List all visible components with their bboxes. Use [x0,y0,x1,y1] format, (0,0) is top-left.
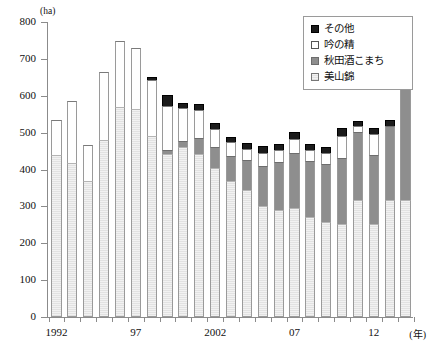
segment-miyamanishiki [337,224,347,317]
segment-akitasakekomachi [289,153,299,208]
segment-sonota [258,146,268,153]
segment-ginnosei [194,110,204,138]
bar-2007 [289,132,299,317]
x-axis-tick [239,317,240,322]
segment-ginnosei [337,136,347,157]
x-axis-tick-label: 2002 [195,326,235,338]
x-axis-tick [175,317,176,322]
bar-1996 [115,41,125,317]
segment-miyamanishiki [67,163,77,317]
x-axis-unit-label: (年) [409,326,426,341]
segment-sonota [337,128,347,136]
segment-ginnosei [210,129,220,147]
segment-miyamanishiki [400,200,410,317]
y-axis-tick-label: 600 [2,90,36,101]
bar-1992 [51,120,61,317]
segment-akitasakekomachi [194,138,204,153]
segment-miyamanishiki [289,208,299,317]
x-axis-tick [191,317,192,322]
y-axis-unit-label: (ha) [40,6,55,16]
x-axis-tick [366,317,367,322]
segment-ginnosei [147,80,157,135]
legend-item-ginnosei: 吟の精 [311,38,406,51]
legend-label-sonota: その他 [324,23,354,34]
segment-ginnosei [258,153,268,166]
x-axis-tick [128,317,129,322]
x-axis-tick [223,317,224,322]
segment-akitasakekomachi [242,160,252,190]
segment-miyamanishiki [369,224,379,317]
segment-sonota [289,132,299,139]
x-axis-tick [144,317,145,322]
segment-miyamanishiki [178,147,188,317]
legend-item-miyama: 美山錦 [311,70,406,83]
segment-sonota [194,104,204,110]
x-axis-tick [112,317,113,322]
segment-sonota [162,95,172,106]
x-axis-tick [414,317,415,322]
segment-miyamanishiki [162,154,172,317]
bar-2009 [321,147,331,317]
segment-ginnosei [162,106,172,150]
bar-2002 [210,123,220,317]
segment-ginnosei [51,120,61,155]
y-axis-tick-label: 100 [2,274,36,285]
segment-sonota [385,120,395,126]
segment-akitasakekomachi [210,147,220,167]
segment-ginnosei [131,48,141,109]
segment-akitasakekomachi [400,85,410,200]
segment-akitasakekomachi [369,155,379,224]
legend-label-miyama: 美山錦 [324,71,354,82]
segment-ginnosei [289,139,299,153]
legend-item-komachi: 秋田酒こまち [311,54,406,67]
x-axis-tick [64,317,65,322]
segment-akitasakekomachi [353,132,363,200]
bar-2011 [353,121,363,317]
segment-miyamanishiki [321,222,331,317]
segment-akitasakekomachi [162,150,172,154]
segment-ginnosei [226,142,236,156]
x-axis-tick [160,317,161,322]
legend-item-sonota: その他 [311,22,406,35]
segment-miyamanishiki [99,140,109,317]
black-square-swatch-icon [311,25,319,33]
segment-miyamanishiki [194,154,204,317]
x-axis-tick [334,317,335,322]
bar-1999 [162,95,172,317]
segment-sonota [305,144,315,150]
y-axis-tick-label: 400 [2,164,36,175]
x-axis-tick [255,317,256,322]
segment-miyamanishiki [305,217,315,317]
chart-legend: その他 吟の精 秋田酒こまち 美山錦 [303,16,413,90]
bar-2004 [242,143,252,317]
bar-2008 [305,144,315,317]
x-axis-tick-label: 12 [354,326,394,338]
segment-miyamanishiki [226,181,236,317]
segment-akitasakekomachi [337,158,347,224]
x-axis-tick [382,317,383,322]
bar-2010 [337,128,347,317]
segment-akitasakekomachi [258,166,268,207]
y-axis-tick-label: 0 [2,311,36,322]
segment-miyamanishiki [274,210,284,317]
y-axis-tick-label: 700 [2,53,36,64]
x-axis-tick [96,317,97,322]
x-axis-tick [80,317,81,322]
segment-sonota [210,123,220,129]
segment-sonota [226,137,236,142]
x-axis-tick [49,317,50,322]
segment-ginnosei [83,145,93,181]
y-axis-tick [41,317,47,318]
bar-2006 [274,144,284,317]
segment-sonota [242,143,252,150]
bar-2001 [194,104,204,317]
segment-ginnosei [242,149,252,160]
x-axis-tick [302,317,303,322]
x-axis-tick-label: 1992 [36,326,76,338]
y-axis-tick-label: 300 [2,200,36,211]
segment-sonota [147,77,157,80]
segment-miyamanishiki [51,155,61,317]
bar-2000 [178,103,188,317]
segment-ginnosei [321,153,331,164]
segment-sonota [321,147,331,153]
